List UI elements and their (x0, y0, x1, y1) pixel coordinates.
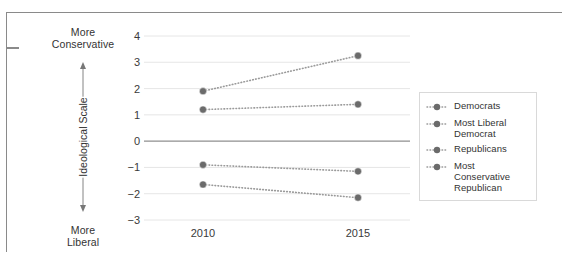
series-line (203, 165, 358, 172)
y-tick-label: 2 (134, 83, 140, 95)
legend-item-label: Most Liberal Democrat (454, 117, 529, 139)
data-point-marker (354, 194, 361, 201)
legend-marker-icon (426, 118, 448, 130)
y-tick-label: 1 (134, 109, 140, 121)
y-axis-direction-arrow: Ideological Scale (52, 50, 114, 224)
y-axis-label: Ideological Scale (75, 96, 91, 177)
y-axis-top-note: More Conservative (52, 26, 114, 50)
y-axis-top-note-line2: Conservative (52, 38, 114, 50)
legend-item[interactable]: Most Liberal Democrat (426, 117, 529, 139)
series-democrats (199, 161, 361, 175)
data-point-marker (199, 88, 206, 95)
chart-legend: DemocratsMost Liberal DemocratRepublican… (419, 92, 537, 201)
x-tick-label: 2010 (191, 227, 215, 239)
legend-marker-icon (426, 101, 448, 113)
data-point-marker (354, 101, 361, 108)
data-point-marker (354, 52, 361, 59)
series-line (203, 104, 358, 109)
x-tick-label: 2015 (346, 227, 370, 239)
plot-svg: 43210−1−2−320102015 (118, 26, 418, 248)
y-axis-annotation: More Conservative Ideological Scale More… (52, 26, 114, 248)
ideological-scale-chart: More Conservative Ideological Scale More… (0, 0, 562, 270)
data-point-marker (199, 181, 206, 188)
legend-item[interactable]: Most Conservative Republican (426, 160, 529, 193)
y-axis-bottom-note: More Liberal (67, 224, 99, 248)
data-point-marker (354, 168, 361, 175)
plot-area: 43210−1−2−320102015 (118, 26, 418, 248)
legend-item-label: Republicans (454, 143, 507, 154)
legend-item-label: Most Conservative Republican (454, 160, 529, 193)
series-line (203, 56, 358, 91)
y-axis-bottom-note-line2: Liberal (67, 236, 99, 248)
data-point-marker (199, 106, 206, 113)
legend-item[interactable]: Democrats (426, 100, 529, 113)
y-tick-label: 3 (134, 56, 140, 68)
y-axis-top-note-line1: More (52, 26, 114, 38)
y-tick-label: 0 (134, 135, 140, 147)
series-most-liberal-democrat (199, 181, 361, 201)
legend-item[interactable]: Republicans (426, 143, 529, 156)
legend-item-label: Democrats (454, 100, 500, 111)
y-tick-label: −2 (127, 188, 140, 200)
y-tick-label: 4 (134, 30, 140, 42)
legend-marker-icon (426, 161, 448, 173)
legend-marker-icon (426, 144, 448, 156)
y-axis-bottom-note-line1: More (67, 224, 99, 236)
series-most-conservative-republican (199, 101, 361, 113)
series-line (203, 185, 358, 198)
data-point-marker (199, 161, 206, 168)
y-tick-label: −3 (127, 214, 140, 226)
y-tick-label: −1 (127, 161, 140, 173)
